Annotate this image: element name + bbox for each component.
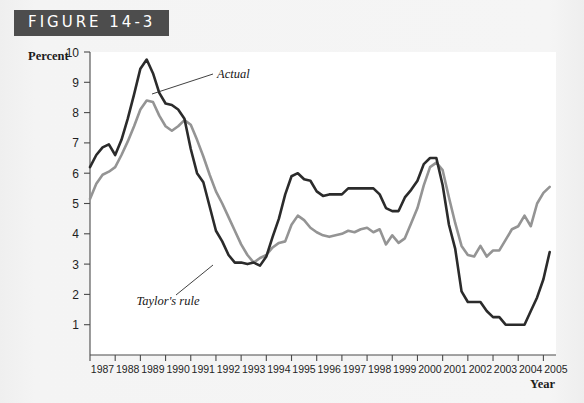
x-tick-label: 2000 [418, 363, 442, 375]
y-tick-label: 5 [72, 197, 79, 211]
x-axis-tick-labels: 1987198819891990199119921993199419951996… [91, 363, 568, 375]
chart-plot-area: 12345678910 1987198819891990199119921993… [0, 0, 584, 403]
x-axis-title: Year [530, 377, 555, 391]
y-tick-label: 4 [72, 227, 79, 241]
x-tick-label: 1989 [141, 363, 165, 375]
x-tick-label: 1997 [343, 363, 367, 375]
taylors-rule-annotation-label: Taylor's rule [137, 294, 200, 308]
x-tick-label: 1995 [292, 363, 316, 375]
x-tick-label: 1992 [217, 363, 241, 375]
x-tick-label: 1996 [318, 363, 342, 375]
y-tick-label: 2 [72, 288, 79, 302]
y-axis-title: Percent [28, 49, 70, 63]
x-tick-label: 1999 [393, 363, 417, 375]
y-tick-label: 7 [72, 136, 79, 150]
x-tick-label: 2003 [494, 363, 518, 375]
x-tick-label: 1991 [192, 363, 216, 375]
x-tick-label: 1994 [267, 363, 291, 375]
y-tick-label: 3 [72, 258, 79, 272]
x-tick-label: 1998 [368, 363, 392, 375]
y-axis-tick-labels: 12345678910 [66, 46, 80, 333]
x-axis-ticks [90, 355, 543, 361]
x-tick-label: 2005 [544, 363, 568, 375]
x-tick-label: 1993 [242, 363, 266, 375]
x-tick-label: 2002 [469, 363, 493, 375]
y-tick-label: 1 [72, 318, 79, 332]
x-tick-label: 2001 [443, 363, 467, 375]
y-tick-label: 6 [72, 167, 79, 181]
y-tick-label: 8 [72, 106, 79, 120]
line-chart-svg: 12345678910 1987198819891990199119921993… [0, 0, 584, 403]
x-tick-label: 1990 [166, 363, 190, 375]
x-tick-label: 1987 [91, 363, 115, 375]
figure-container: FIGURE 14-3 12345678910 1987198819891990… [0, 0, 584, 403]
actual-annotation-label: Actual [216, 67, 250, 81]
x-tick-label: 2004 [519, 363, 543, 375]
y-tick-label: 9 [72, 76, 79, 90]
y-axis-ticks [84, 52, 90, 325]
x-tick-label: 1988 [116, 363, 140, 375]
